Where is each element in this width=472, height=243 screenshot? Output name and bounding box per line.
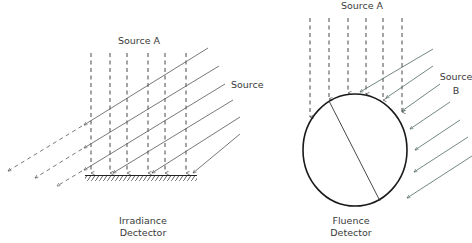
irradiance-diagram: Source A Source Irradiance Dectector xyxy=(8,35,264,238)
source-a-label-left: Source A xyxy=(118,35,161,46)
irradiance-detector-label-line2: Dectector xyxy=(120,227,167,238)
irradiance-detector-surface xyxy=(85,176,197,182)
source-b-rays-left xyxy=(84,48,240,173)
dashed-continuation-rays xyxy=(8,126,82,186)
fluence-detector-sphere xyxy=(303,94,407,206)
source-b-label-right-line1: Source xyxy=(440,71,472,82)
fluence-detector-label-line1: Fluence xyxy=(332,215,369,226)
irradiance-detector-label-line1: Irradiance xyxy=(119,215,167,226)
source-b-label-left: Source xyxy=(231,79,264,90)
source-a-label-right: Source A xyxy=(341,0,384,11)
fluence-diagram: Source A Source B Fluence Detector xyxy=(303,0,472,238)
source-a-rays-right xyxy=(310,18,402,117)
source-a-rays-left xyxy=(91,53,186,173)
diagram-canvas: Source A Source Irradiance Dectector xyxy=(0,0,472,243)
source-b-label-right-line2: B xyxy=(453,85,460,96)
fluence-detector-label-line2: Detector xyxy=(330,227,371,238)
